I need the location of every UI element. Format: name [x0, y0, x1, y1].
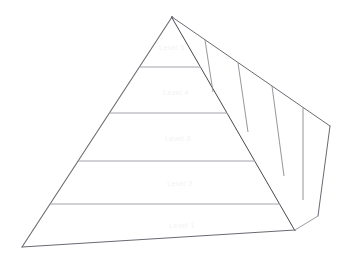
pyramid-diagram-canvas: Level 5 Level 4 Level 3 Level 2 Level 1 — [0, 0, 357, 265]
band-label-5: Level 5 — [159, 44, 184, 51]
band-label-3: Level 3 — [165, 135, 190, 142]
band-label-2: Level 2 — [167, 180, 192, 187]
band-label-4: Level 4 — [163, 89, 188, 96]
pyramid-diagram: Level 5 Level 4 Level 3 Level 2 Level 1 — [0, 0, 357, 265]
band-label-1: Level 1 — [169, 222, 194, 229]
